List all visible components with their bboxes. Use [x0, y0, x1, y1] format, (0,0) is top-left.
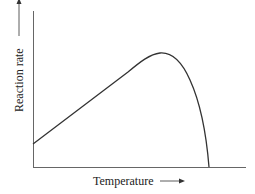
y-axis-label-group: Reaction rate — [12, 0, 26, 112]
y-axis-label: Reaction rate — [12, 48, 26, 112]
x-axis-label: Temperature — [93, 174, 153, 188]
x-arrow-icon — [179, 179, 185, 184]
reaction-rate-curve — [33, 53, 209, 167]
chart: Reaction rate Temperature — [0, 0, 255, 194]
y-arrow-icon — [17, 0, 22, 4]
